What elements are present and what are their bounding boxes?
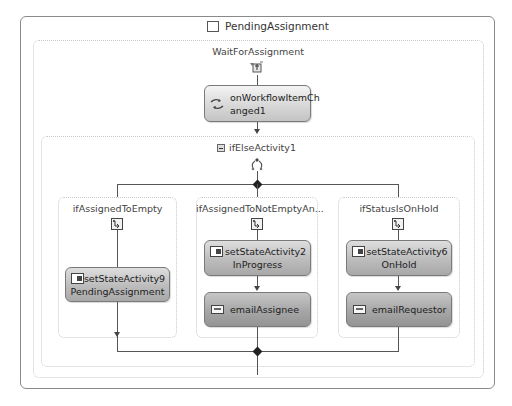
collapse-minus-icon[interactable] [217, 144, 225, 152]
arrow-down-icon [254, 129, 260, 134]
set-state-icon [210, 246, 223, 257]
activity-name-line2: PendingAssignment [66, 285, 169, 298]
branch-label: ifAssignedToEmpty [58, 203, 177, 214]
send-email-icon [211, 305, 224, 314]
activity-name-line2: OnHold [347, 258, 451, 271]
activity-name-line2: InProgress [205, 258, 310, 271]
activity-name-line1: onWorkflowItemCh [230, 91, 320, 104]
if-else-branch-icon [250, 157, 264, 171]
branch-condition-icon [392, 218, 404, 230]
if-else-label: ifElseActivity1 [229, 142, 296, 153]
branch-label: ifAssignedToNotEmptyAn... [196, 203, 318, 214]
branch-label: ifStatusIsOnHold [338, 203, 460, 214]
activity-name-line2: anged1 [230, 104, 320, 117]
activity-onworkflowitemchanged1[interactable]: onWorkflowItemCh anged1 [204, 85, 311, 122]
send-email-icon [353, 305, 366, 314]
branch-condition-icon [111, 218, 123, 230]
arrow-down-icon [254, 286, 260, 291]
event-driven-label: WaitForAssignment [208, 46, 308, 57]
set-state-icon [352, 246, 365, 257]
activity-setstateactivity9[interactable]: setStateActivity9 PendingAssignment [65, 267, 170, 302]
arrow-down-icon [114, 332, 120, 337]
arrow-down-icon [395, 286, 401, 291]
handle-external-event-icon [210, 98, 224, 110]
activity-name: emailAssignee [230, 304, 299, 315]
event-driven-icon [249, 61, 264, 74]
activity-setstateactivity2[interactable]: setStateActivity2 InProgress [204, 240, 311, 276]
activity-emailrequestor[interactable]: emailRequestor [346, 292, 452, 327]
branch-condition-icon [251, 218, 263, 230]
state-square-icon [207, 21, 219, 32]
activity-name: emailRequestor [372, 304, 447, 315]
activity-setstateactivity6[interactable]: setStateActivity6 OnHold [346, 240, 452, 276]
set-state-icon [71, 273, 84, 284]
state-title: PendingAssignment [225, 20, 329, 32]
activity-emailassignee[interactable]: emailAssignee [204, 292, 311, 327]
